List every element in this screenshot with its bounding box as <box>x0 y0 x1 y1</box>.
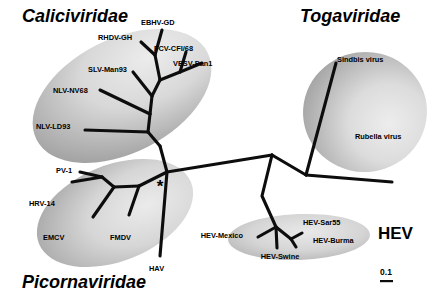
cluster-shading-group <box>11 2 435 289</box>
scale-bar-label: 0.1 <box>380 267 392 277</box>
branch-rubella <box>306 175 392 182</box>
taxon-label-fcv-cfi68: FCV-CFI/68 <box>154 44 193 53</box>
picornaviridae-cluster-ellipse <box>21 138 209 288</box>
family-label-picornaviridae: Picornaviridae <box>22 272 146 292</box>
asterisk-node-marker: * <box>157 177 164 196</box>
taxon-label-vesv-pan1: VESV-Pan1 <box>173 59 212 68</box>
branch-hev-swine <box>276 227 277 248</box>
scale-bar-tick <box>380 280 393 282</box>
calici-mid-stem <box>150 96 152 114</box>
taxon-label-nlv-ld93: NLV-LD93 <box>36 122 70 131</box>
internal-branch-to-hev <box>262 155 276 227</box>
taxon-label-hev-mexico: HEV-Mexico <box>201 231 244 240</box>
taxon-label-emcv: EMCV <box>43 233 64 242</box>
scale-bar: 0.1 <box>380 267 393 282</box>
taxon-label-hav: HAV <box>149 264 164 273</box>
picorna-upper-stem <box>114 186 139 187</box>
family-label-togaviridae: Togaviridae <box>300 6 400 26</box>
taxon-label-fmdv: FMDV <box>110 233 131 242</box>
branch-nlv-ld93 <box>85 130 148 132</box>
internal-branch-backbone <box>167 155 272 172</box>
taxon-label-hev-sar55: HEV-Sar55 <box>303 218 340 227</box>
taxon-label-pv-1: PV-1 <box>56 166 72 175</box>
taxon-label-sindbis-virus: Sindbis virus <box>337 55 383 64</box>
taxon-label-slv-man93: SLV-Man93 <box>88 65 127 74</box>
taxon-label-hev-swine: HEV-Swine <box>261 252 300 261</box>
taxon-label-nlv-nv68: NLV-NV68 <box>53 86 88 95</box>
phylogenetic-tree-figure: * Caliciviridae Togaviridae Picornavirid… <box>0 0 440 300</box>
taxon-label-hev-burma: HEV-Burma <box>313 236 355 245</box>
calici-upper-stem <box>148 114 150 132</box>
family-label-caliciviridae: Caliciviridae <box>22 6 128 26</box>
taxon-label-ebhv-gd: EBHV-GD <box>141 18 175 27</box>
taxon-label-hrv-14: HRV-14 <box>29 199 56 208</box>
togaviridae-cluster-ellipse <box>295 44 434 180</box>
internal-branch-to-togaviridae <box>272 155 306 175</box>
taxon-label-rhdv-gh: RHDV-GH <box>98 33 132 42</box>
family-label-hev: HEV <box>378 224 414 243</box>
taxon-label-rubella-virus: Rubella virus <box>355 132 401 141</box>
